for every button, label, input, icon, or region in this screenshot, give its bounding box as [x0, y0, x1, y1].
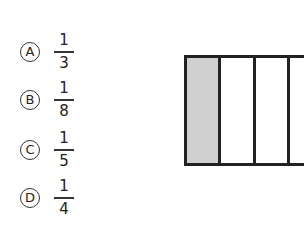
fraction-rectangle-figure — [184, 55, 304, 166]
numerator: 1 — [54, 178, 74, 195]
denominator: 3 — [54, 55, 74, 72]
unshaded-part — [287, 58, 304, 163]
numerator: 1 — [54, 32, 74, 49]
fraction-bar — [54, 149, 74, 151]
fraction: 1 8 — [54, 80, 74, 120]
option-letter-circle: B — [20, 90, 40, 110]
unshaded-part — [218, 58, 252, 163]
denominator: 5 — [54, 153, 74, 170]
option-letter-circle: A — [20, 42, 40, 62]
fraction-bar — [54, 197, 74, 199]
denominator: 4 — [54, 201, 74, 218]
fraction: 1 4 — [54, 178, 74, 218]
option-letter-circle: C — [20, 140, 40, 160]
shaded-part — [187, 58, 218, 163]
option-b[interactable]: B 1 8 — [20, 80, 90, 124]
option-letter-circle: D — [20, 188, 40, 208]
option-a[interactable]: A 1 3 — [20, 32, 90, 76]
unshaded-part — [253, 58, 287, 163]
fraction: 1 3 — [54, 32, 74, 72]
denominator: 8 — [54, 103, 74, 120]
fraction-bar — [54, 51, 74, 53]
numerator: 1 — [54, 130, 74, 147]
numerator: 1 — [54, 80, 74, 97]
fraction-bar — [54, 99, 74, 101]
option-c[interactable]: C 1 5 — [20, 130, 90, 174]
fraction: 1 5 — [54, 130, 74, 170]
option-d[interactable]: D 1 4 — [20, 178, 90, 222]
